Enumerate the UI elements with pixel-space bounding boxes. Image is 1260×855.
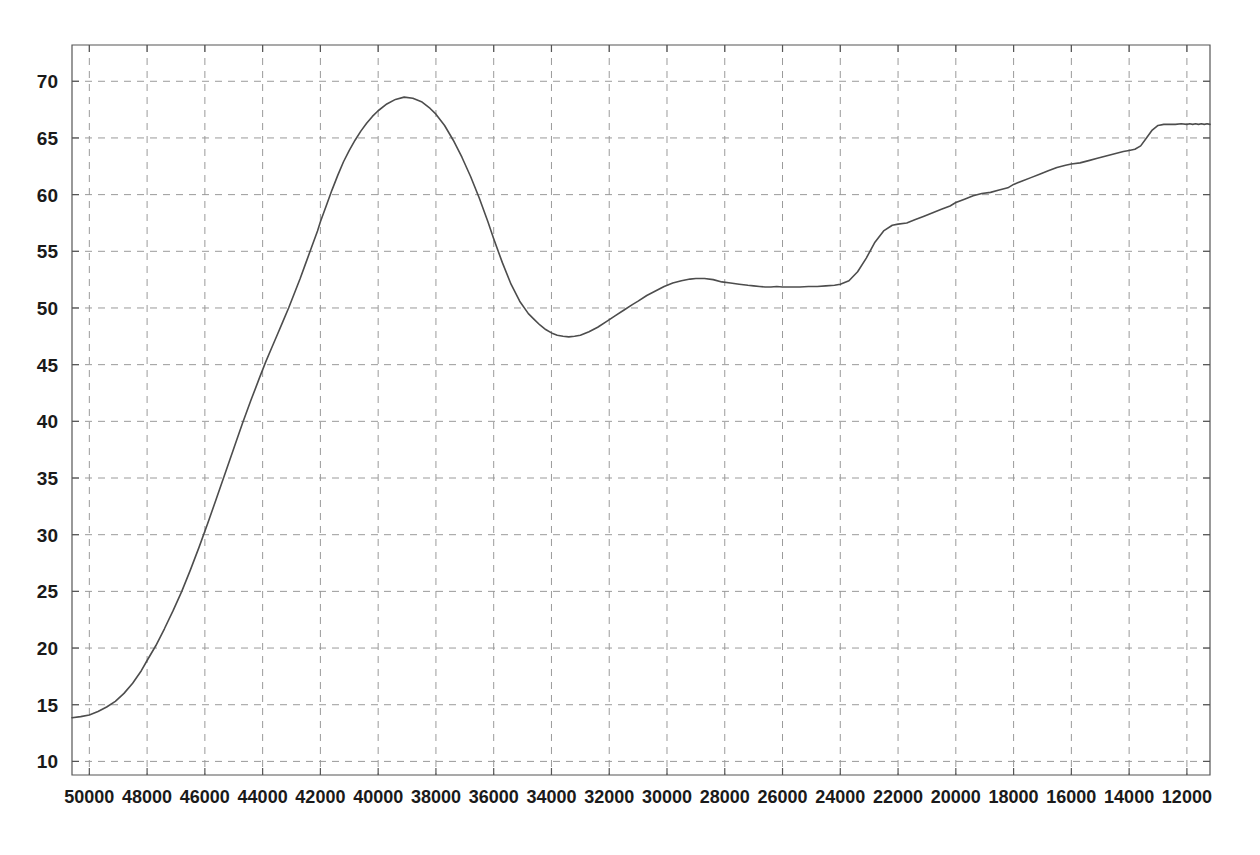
plot-frame — [72, 45, 1210, 775]
ytick-label-10: 60 — [37, 185, 58, 206]
xtick-label-4: 42000 — [295, 787, 345, 807]
xtick-label-0: 50000 — [64, 787, 114, 807]
line-chart: 5000048000460004400042000400003800036000… — [0, 0, 1260, 855]
xtick-label-8: 34000 — [526, 787, 576, 807]
data-series-group — [72, 97, 1210, 718]
chart-container: 5000048000460004400042000400003800036000… — [0, 0, 1260, 855]
ytick-label-8: 50 — [37, 298, 58, 319]
ytick-label-3: 25 — [37, 581, 59, 602]
vertical-gridlines — [89, 45, 1187, 775]
xtick-label-19: 12000 — [1162, 787, 1212, 807]
xtick-label-16: 18000 — [989, 787, 1039, 807]
xtick-label-12: 26000 — [757, 787, 807, 807]
ytick-label-7: 45 — [37, 355, 59, 376]
xtick-label-3: 44000 — [238, 787, 288, 807]
xtick-label-1: 48000 — [122, 787, 172, 807]
xtick-label-9: 32000 — [584, 787, 634, 807]
xtick-label-15: 20000 — [931, 787, 981, 807]
series-line-0 — [72, 97, 1210, 718]
xtick-label-2: 46000 — [180, 787, 230, 807]
ytick-label-2: 20 — [37, 638, 58, 659]
xtick-label-17: 16000 — [1046, 787, 1096, 807]
ytick-label-0: 10 — [37, 751, 58, 772]
ytick-label-12: 70 — [37, 71, 58, 92]
xtick-label-6: 38000 — [411, 787, 461, 807]
ytick-label-4: 30 — [37, 525, 58, 546]
xtick-label-14: 22000 — [873, 787, 923, 807]
x-axis-tick-labels: 5000048000460004400042000400003800036000… — [64, 787, 1212, 807]
y-axis-tick-labels: 10152025303540455055606570 — [37, 71, 59, 772]
xtick-label-7: 36000 — [469, 787, 519, 807]
ytick-label-1: 15 — [37, 695, 59, 716]
xtick-label-11: 28000 — [700, 787, 750, 807]
xtick-label-13: 24000 — [815, 787, 865, 807]
xtick-label-18: 14000 — [1104, 787, 1154, 807]
ytick-label-6: 40 — [37, 411, 58, 432]
x-axis-tick-marks — [89, 45, 1187, 775]
ytick-label-11: 65 — [37, 128, 59, 149]
ytick-label-9: 55 — [37, 241, 59, 262]
xtick-label-5: 40000 — [353, 787, 403, 807]
ytick-label-5: 35 — [37, 468, 59, 489]
xtick-label-10: 30000 — [642, 787, 692, 807]
